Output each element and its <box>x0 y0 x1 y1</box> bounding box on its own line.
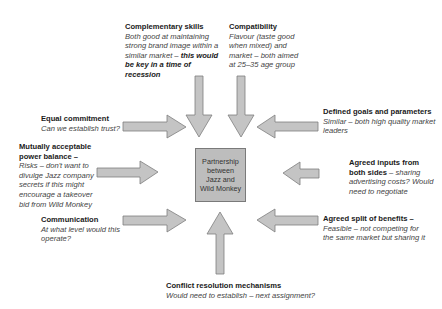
arrow-right-communication <box>123 209 186 232</box>
factor-title: Communication <box>41 215 123 225</box>
partnership-diagram: Partnership between Jazz and Wild Monkey… <box>0 0 442 309</box>
arrow-down-complementary <box>186 76 212 137</box>
arrow-down-compatibility <box>228 76 254 137</box>
factor-title: Equal commitment <box>41 114 123 124</box>
factor-body: Flavour (taste good when mixed) and mark… <box>229 32 298 70</box>
factor-compatibility: Compatibility Flavour (taste good when m… <box>229 22 299 70</box>
arrow-right-power-balance <box>97 161 158 184</box>
factor-defined-goals: Defined goals and parameters Similar – b… <box>323 107 441 136</box>
factor-communication: Communication At what level would this o… <box>41 215 123 244</box>
factor-body: Would need to establish – next assignmen… <box>166 291 315 300</box>
factor-body: At what level would this operate? <box>41 225 120 244</box>
factor-body: Similar – both high quality market leade… <box>323 117 435 136</box>
factor-title: Complementary skills <box>125 22 221 32</box>
factor-complementary-skills: Complementary skills Both good at mainta… <box>125 22 221 80</box>
factor-agreed-split: Agreed split of benefits – Feasible – no… <box>323 214 431 243</box>
factor-agreed-inputs: Agreed inputs from both sides – sharing … <box>349 158 437 196</box>
factor-body: Can we establish trust? <box>41 124 120 133</box>
center-line-4: Wild Monkey <box>200 184 241 193</box>
factor-body: Risks – don't want to divulge Jazz compa… <box>19 161 94 208</box>
factor-conflict-resolution: Conflict resolution mechanisms Would nee… <box>166 281 336 300</box>
factor-equal-commitment: Equal commitment Can we establish trust? <box>41 114 123 133</box>
center-line-2: between <box>200 166 241 175</box>
factor-title: Compatibility <box>229 22 299 32</box>
factor-title: Agreed split of benefits – <box>323 214 431 224</box>
arrow-left-agreed-split <box>257 209 318 232</box>
center-line-1: Partnership <box>200 157 241 166</box>
arrow-up-conflict-resolution <box>207 212 233 274</box>
center-partnership-box: Partnership between Jazz and Wild Monkey <box>195 148 246 202</box>
factor-title: Mutually acceptable power balance – <box>19 142 95 161</box>
arrow-left-agreed-inputs <box>283 162 319 185</box>
factor-title: Conflict resolution mechanisms <box>166 281 336 291</box>
arrow-left-defined-goals <box>257 115 318 138</box>
center-line-3: Jazz and <box>200 175 241 184</box>
factor-title: Defined goals and parameters <box>323 107 441 117</box>
factor-body: Feasible – not competing for the same ma… <box>323 224 425 243</box>
factor-power-balance: Mutually acceptable power balance – Risk… <box>19 142 95 209</box>
arrow-right-equal-commitment <box>123 115 186 138</box>
